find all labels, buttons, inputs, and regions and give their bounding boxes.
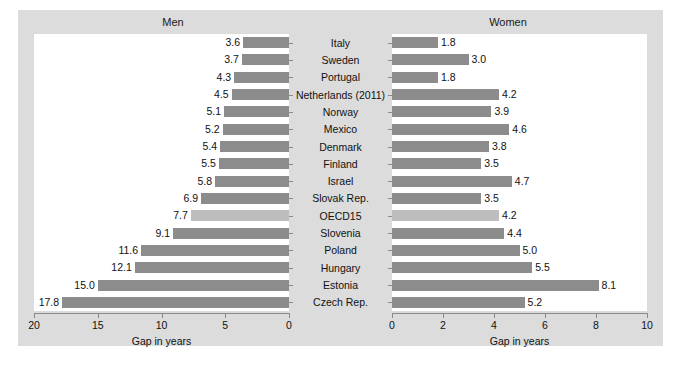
category-label: Slovak Rep. <box>293 189 388 207</box>
axis-tick-label: 2 <box>440 319 446 331</box>
category-label: Italy <box>293 34 388 52</box>
bar-value-label: 9.1 <box>155 226 170 241</box>
bar <box>392 106 491 117</box>
axis-tick-mark <box>443 313 444 318</box>
axis-tick-mark <box>289 313 290 318</box>
axis-tick-mark <box>596 313 597 318</box>
bar <box>242 54 289 65</box>
bar-row: 5.2 <box>34 121 289 138</box>
category-label: Netherlands (2011) <box>293 86 388 104</box>
bar-value-label: 15.0 <box>74 278 94 293</box>
bar-value-label: 17.8 <box>39 295 59 310</box>
panel-strip-titles: Men Women <box>18 10 663 34</box>
bar-rows-women: 1.83.01.84.23.94.63.83.54.73.54.24.45.05… <box>392 34 647 311</box>
bar-row: 5.5 <box>392 259 647 276</box>
bar-row: 12.1 <box>34 259 289 276</box>
bar-row: 5.2 <box>392 294 647 311</box>
category-label: Poland <box>293 241 388 259</box>
bar <box>219 158 289 169</box>
category-tick <box>388 181 392 182</box>
bar <box>232 89 289 100</box>
bar-value-label: 6.9 <box>183 191 198 206</box>
category-tick <box>388 112 392 113</box>
category-tick <box>388 216 392 217</box>
axis-tick-mark <box>34 313 35 318</box>
bar-value-label: 4.6 <box>512 122 527 137</box>
bar-rows-men: 3.63.74.34.55.15.25.45.55.86.97.79.111.6… <box>34 34 289 311</box>
axis-tick-label: 4 <box>491 319 497 331</box>
bar <box>234 72 289 83</box>
bar <box>392 141 489 152</box>
bar-row: 5.8 <box>34 173 289 190</box>
category-label: Czech Rep. <box>293 293 388 311</box>
bar-value-label: 5.5 <box>201 156 216 171</box>
axis-tick-label: 5 <box>222 319 228 331</box>
bar <box>191 210 289 221</box>
bar <box>201 193 289 204</box>
bar-value-label: 5.1 <box>206 104 221 119</box>
bar-value-label: 3.6 <box>226 35 241 50</box>
bar-value-label: 3.5 <box>484 156 499 171</box>
category-tick <box>388 129 392 130</box>
bar-row: 4.3 <box>34 69 289 86</box>
bar-row: 1.8 <box>392 34 647 51</box>
axis-tick-label: 0 <box>389 319 395 331</box>
category-tick <box>388 268 392 269</box>
plot-panel-women: 1.83.01.84.23.94.63.83.54.73.54.24.45.05… <box>392 34 647 311</box>
bar-row: 6.9 <box>34 190 289 207</box>
axis-tick-mark <box>392 313 393 318</box>
bar <box>392 297 525 308</box>
bar-value-label: 1.8 <box>441 70 456 85</box>
axis-tick-mark <box>647 313 648 318</box>
axis-tick-mark <box>545 313 546 318</box>
bar-value-label: 3.7 <box>224 52 239 67</box>
category-label: Finland <box>293 155 388 173</box>
bar <box>98 280 289 291</box>
plot-panel-men: 3.63.74.34.55.15.25.45.55.86.97.79.111.6… <box>34 34 289 311</box>
axis-tick-label: 6 <box>542 319 548 331</box>
bar-row: 4.5 <box>34 86 289 103</box>
panel-title-women: Women <box>353 10 663 34</box>
bar-row: 5.1 <box>34 103 289 120</box>
bar <box>392 280 599 291</box>
bar <box>392 158 481 169</box>
bar-value-label: 3.9 <box>494 104 509 119</box>
category-label: Mexico <box>293 120 388 138</box>
category-tick <box>388 164 392 165</box>
category-tick <box>388 147 392 148</box>
category-label: Sweden <box>293 51 388 69</box>
axis-tick-label: 10 <box>156 319 168 331</box>
bar <box>392 262 532 273</box>
bar-value-label: 5.0 <box>523 243 538 258</box>
bar <box>392 89 499 100</box>
bar-row: 8.1 <box>392 276 647 293</box>
category-tick <box>388 233 392 234</box>
bar-row: 17.8 <box>34 294 289 311</box>
bar <box>392 124 509 135</box>
bar-row: 3.6 <box>34 34 289 51</box>
bar-value-label: 4.2 <box>502 208 517 223</box>
category-label: Estonia <box>293 276 388 294</box>
category-label: Israel <box>293 172 388 190</box>
category-tick <box>388 95 392 96</box>
bar-value-label: 4.2 <box>502 87 517 102</box>
bar-row: 1.8 <box>392 69 647 86</box>
axis-tick-mark <box>162 313 163 318</box>
category-tick <box>388 250 392 251</box>
bar-row: 4.7 <box>392 173 647 190</box>
x-axis-women: 0246810 Gap in years <box>392 313 647 343</box>
category-tick <box>388 285 392 286</box>
axis-tick-label: 0 <box>286 319 292 331</box>
bar-value-label: 12.1 <box>111 260 131 275</box>
bar-value-label: 4.3 <box>217 70 232 85</box>
axis-tick-mark <box>98 313 99 318</box>
category-tick <box>388 43 392 44</box>
bar-value-label: 4.7 <box>515 174 530 189</box>
category-label: Denmark <box>293 138 388 156</box>
bar-row: 3.9 <box>392 103 647 120</box>
axis-tick-mark <box>225 313 226 318</box>
panel-title-men: Men <box>18 10 328 34</box>
bar <box>135 262 289 273</box>
bar <box>392 245 520 256</box>
bar-value-label: 4.4 <box>507 226 522 241</box>
